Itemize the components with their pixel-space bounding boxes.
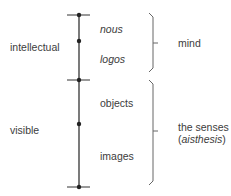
- label-objects: objects: [100, 97, 133, 109]
- lower-mid-dot: [77, 122, 81, 126]
- label-images: images: [100, 150, 134, 162]
- senses-aisthesis: aisthesis: [182, 133, 223, 145]
- senses-line1: the senses: [178, 121, 229, 133]
- label-intellectual: intellectual: [10, 41, 60, 53]
- label-logos: logos: [100, 53, 125, 65]
- label-visible: visible: [10, 124, 39, 136]
- label-nous: nous: [100, 23, 123, 35]
- label-the-senses: the senses (aisthesis): [178, 121, 229, 145]
- senses-close-paren: ): [222, 133, 226, 145]
- middle-dot: [77, 78, 81, 82]
- label-mind: mind: [178, 37, 201, 49]
- bottom-dot: [77, 185, 81, 189]
- top-dot: [77, 13, 81, 17]
- upper-mid-dot: [77, 39, 81, 43]
- upper-brace: [149, 13, 158, 72]
- lower-brace: [149, 80, 158, 185]
